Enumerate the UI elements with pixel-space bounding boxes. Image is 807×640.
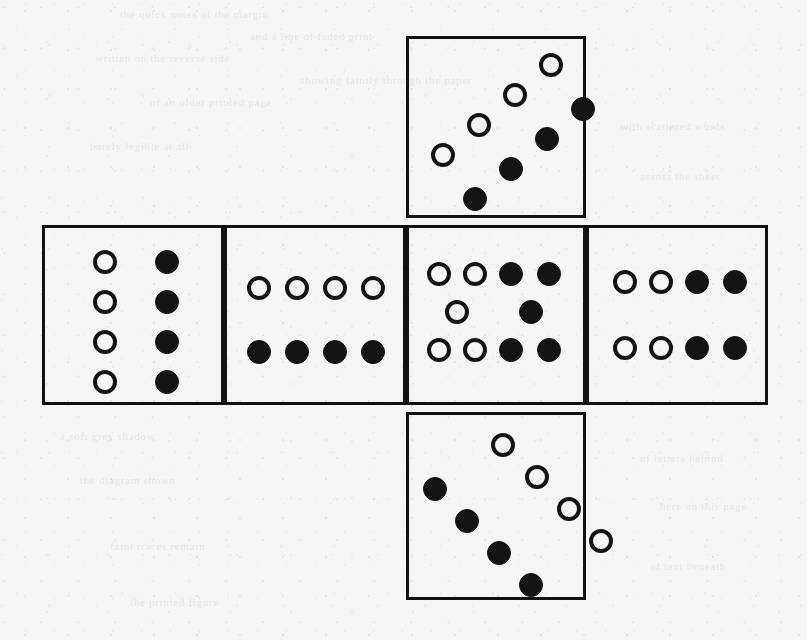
pip-black [155,370,179,394]
pip-white [525,465,549,489]
pip-black [519,573,543,597]
pip-white [589,529,613,553]
pip-white [427,338,451,362]
pip-white [503,83,527,107]
pip-white [463,338,487,362]
pip-black [487,541,511,565]
pip-white [93,290,117,314]
puzzle-page: the quick notes of the marginand a line … [0,0,807,640]
pip-black [423,477,447,501]
pip-white [93,370,117,394]
pip-white [427,262,451,286]
pip-white [323,276,347,300]
pip-black [571,97,595,121]
pip-black [155,290,179,314]
pip-white [557,497,581,521]
pip-black [723,270,747,294]
pip-white [93,250,117,274]
pip-black [155,330,179,354]
face-front-left [224,225,406,405]
pip-black [463,187,487,211]
pip-black [519,300,543,324]
pip-black [537,338,561,362]
pip-white [649,336,673,360]
pip-black [685,336,709,360]
pip-white [467,113,491,137]
pip-black [455,509,479,533]
face-top [406,36,586,218]
face-right [586,225,768,405]
pip-white [247,276,271,300]
pip-white [539,53,563,77]
cube-net-diagram [0,0,807,640]
pip-white [613,336,637,360]
face-bottom [406,412,586,600]
pip-white [463,262,487,286]
pip-white [491,433,515,457]
pip-white [613,270,637,294]
pip-black [535,127,559,151]
pip-black [155,250,179,274]
pip-white [445,300,469,324]
pip-black [685,270,709,294]
pip-white [285,276,309,300]
pip-black [499,338,523,362]
pip-black [499,262,523,286]
pip-white [431,143,455,167]
pip-black [247,340,271,364]
pip-white [361,276,385,300]
pip-black [323,340,347,364]
pip-black [361,340,385,364]
pip-white [93,330,117,354]
face-center [406,225,586,405]
pip-black [723,336,747,360]
pip-white [649,270,673,294]
pip-black [285,340,309,364]
pip-black [499,157,523,181]
face-left [42,225,224,405]
pip-black [537,262,561,286]
